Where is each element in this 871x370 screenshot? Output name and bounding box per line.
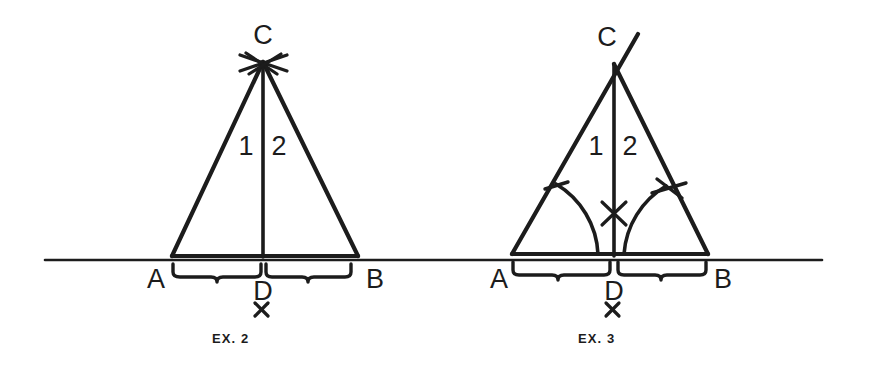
caption-ex3: EX. 3 [578, 331, 615, 346]
vertex-label-c: C [253, 20, 273, 50]
vertex-label-a: A [147, 264, 165, 294]
angle-label-2: 2 [622, 131, 637, 161]
caption-ex2: EX. 2 [212, 331, 249, 346]
angle-label-1: 1 [238, 131, 253, 161]
arc-from-a [556, 184, 598, 254]
vertex-label-d: D [253, 276, 273, 306]
vertex-label-d: D [604, 276, 624, 306]
cross-on-right-leg [652, 179, 686, 198]
angle-label-1: 1 [588, 131, 603, 161]
vertex-label-a: A [490, 264, 508, 294]
triangle-left-leg-ac-extended [512, 34, 638, 254]
panel-ex2: A B C D 1 2 [147, 20, 384, 316]
arc-from-b [624, 186, 666, 254]
geometry-figure: A B C D 1 2 [0, 0, 871, 370]
brace-db [266, 264, 351, 282]
brace-db [618, 262, 706, 280]
vertex-label-b: B [714, 264, 732, 294]
vertex-label-c: C [597, 22, 617, 52]
brace-ad [173, 264, 261, 282]
angle-label-2: 2 [271, 131, 286, 161]
brace-ad [513, 262, 610, 280]
panel-ex3: A B C D 1 2 [490, 22, 732, 316]
vertex-label-b: B [366, 264, 384, 294]
figure-canvas: A B C D 1 2 [0, 0, 871, 370]
